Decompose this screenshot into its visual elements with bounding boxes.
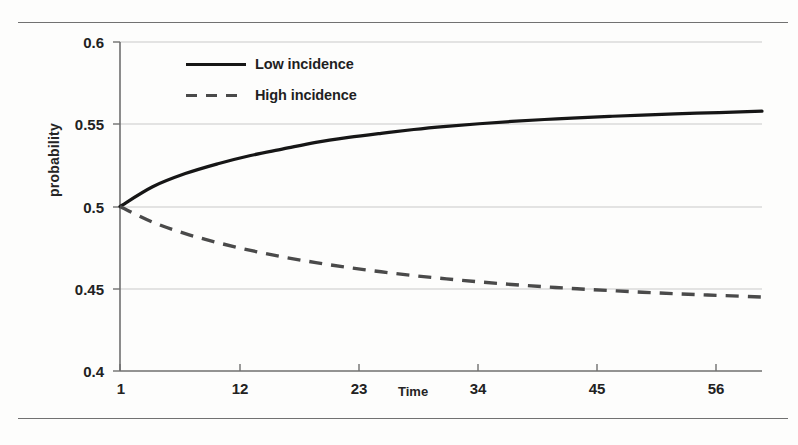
line-chart: probability Time 0.6 0.55 0.5 0.45 0.4 1… <box>0 0 798 445</box>
series-line-high-incidence <box>120 207 762 297</box>
series-line-low-incidence <box>120 111 762 206</box>
plot-canvas <box>0 0 798 445</box>
scanned-page: probability Time 0.6 0.55 0.5 0.45 0.4 1… <box>0 0 798 445</box>
